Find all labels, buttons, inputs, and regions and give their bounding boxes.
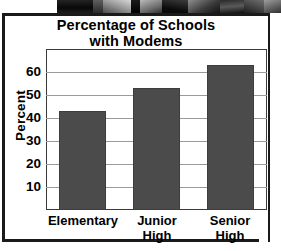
photo-segment	[188, 0, 220, 13]
x-axis-labels: ElementaryJuniorHighSeniorHigh	[46, 213, 267, 249]
chart-title: Percentage of Schools with Modems	[8, 18, 264, 49]
photo-segment	[220, 0, 244, 13]
bar-series	[46, 49, 267, 210]
x-axis-tick-label: SeniorHigh	[193, 213, 267, 243]
x-axis-tick-label: Elementary	[46, 213, 120, 228]
figure-page: Percentage of Schools with Modems Percen…	[0, 0, 281, 251]
photo-segment	[140, 0, 162, 13]
y-axis-tick-label: 20	[11, 156, 41, 171]
photo-segment	[244, 0, 264, 13]
x-axis-tick-label-line: High	[120, 228, 194, 243]
photo-segment	[162, 0, 188, 13]
x-axis-tick-label-line: Senior	[193, 213, 267, 228]
photo-segment	[57, 0, 93, 13]
x-axis-tick-label-line: High	[193, 228, 267, 243]
photo-segment	[103, 0, 131, 13]
chart-title-line-1: Percentage of Schools	[57, 17, 215, 33]
bar-junior-high	[133, 88, 180, 210]
photo-segment	[131, 0, 140, 13]
photograph-strip	[57, 0, 281, 13]
y-axis-tick-label: 40	[11, 110, 41, 125]
x-axis-tick-label-line: Junior	[120, 213, 194, 228]
x-axis-tick-label: JuniorHigh	[120, 213, 194, 243]
chart-title-line-2: with Modems	[8, 34, 264, 50]
photo-segment	[93, 0, 103, 13]
y-axis-tick-label: 30	[11, 133, 41, 148]
bar-elementary	[59, 111, 106, 210]
bar-senior-high	[207, 65, 254, 210]
x-axis-tick-label-line: Elementary	[46, 213, 120, 228]
y-axis-tick-label: 10	[11, 179, 41, 194]
y-axis-tick-label: 60	[11, 64, 41, 79]
y-axis-tick-label: 50	[11, 87, 41, 102]
plot-area-wrapper: 102030405060	[46, 49, 267, 210]
photo-segment	[264, 0, 281, 13]
